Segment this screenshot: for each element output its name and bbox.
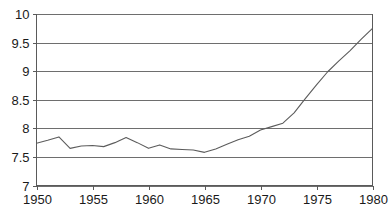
x-tick-label-1970: 1970: [247, 192, 276, 207]
y-tick-marks: [33, 15, 37, 187]
y-tick-label-10: 10: [15, 7, 29, 22]
y-tick-label-7.5: 7.5: [11, 150, 29, 165]
x-axis-tick-labels: 1950195519601965197019751980: [23, 192, 388, 207]
x-tick-label-1955: 1955: [79, 192, 108, 207]
x-tick-label-1965: 1965: [191, 192, 220, 207]
chart-canvas: 77.588.599.510 1950195519601965197019751…: [0, 0, 392, 216]
y-tick-label-8.5: 8.5: [11, 93, 29, 108]
x-tick-label-1980: 1980: [359, 192, 388, 207]
x-tick-label-1950: 1950: [23, 192, 52, 207]
y-tick-label-9.5: 9.5: [11, 36, 29, 51]
x-tick-label-1975: 1975: [303, 192, 332, 207]
y-axis-tick-labels: 77.588.599.510: [11, 7, 29, 194]
line-chart: 77.588.599.510 1950195519601965197019751…: [0, 0, 392, 216]
y-tick-label-8: 8: [22, 121, 29, 136]
y-tick-label-9: 9: [22, 64, 29, 79]
x-tick-label-1960: 1960: [135, 192, 164, 207]
